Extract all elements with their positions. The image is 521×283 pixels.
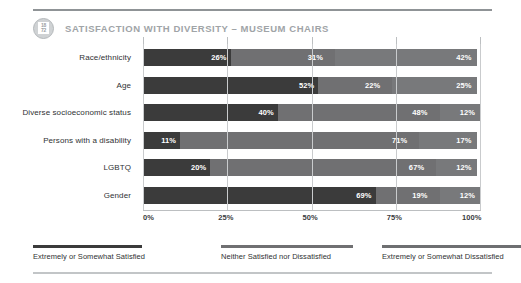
- bar-segment[interactable]: 25%: [392, 77, 476, 94]
- bar-segment[interactable]: 26%: [143, 49, 231, 66]
- bar-value-label: 12%: [460, 108, 480, 117]
- plot-area: 26%31%42%52%22%25%40%48%12%11%71%17%20%6…: [143, 44, 480, 210]
- gridline-0: [143, 44, 144, 210]
- bar-segment[interactable]: 42%: [335, 49, 477, 66]
- bar-value-label: 12%: [456, 163, 476, 172]
- gridline-75: [396, 44, 397, 210]
- bar-value-label: 19%: [412, 191, 439, 200]
- footer-divider: [33, 272, 492, 274]
- bar-value-label: 17%: [456, 136, 476, 145]
- bar-segment[interactable]: 17%: [419, 132, 476, 149]
- gridline-100: [480, 44, 481, 210]
- tick-stub-100: [480, 37, 481, 44]
- bar-segment[interactable]: 12%: [440, 187, 480, 204]
- bar-value-label: 69%: [356, 191, 375, 200]
- header-divider-top: [33, 9, 492, 11]
- bar-segment[interactable]: 20%: [143, 159, 210, 176]
- legend-swatch: [382, 245, 521, 248]
- category-label: Persons with a disability: [43, 132, 131, 149]
- category-label: Race/ethnicity: [79, 49, 131, 66]
- x-tick-label: 75%: [387, 213, 402, 222]
- chart-title: SATISFACTION WITH DIVERSITY – MUSEUM CHA…: [65, 23, 329, 34]
- bar-segment[interactable]: 11%: [143, 132, 180, 149]
- bar-segment[interactable]: 67%: [210, 159, 436, 176]
- bar-segment[interactable]: 52%: [143, 77, 318, 94]
- tick-stub-0: [143, 37, 144, 44]
- x-tick-label: 25%: [218, 213, 233, 222]
- bar-value-label: 11%: [161, 136, 180, 145]
- bar-value-label: 67%: [409, 163, 436, 172]
- bar-value-label: 22%: [365, 81, 392, 90]
- x-tick-label: 0%: [143, 213, 154, 222]
- badge-inner: 18 72: [38, 22, 49, 34]
- chart-legend: Extremely or Somewhat SatisfiedNeither S…: [33, 245, 492, 267]
- category-label: Gender: [104, 187, 131, 204]
- bar-segment[interactable]: 40%: [143, 104, 278, 121]
- legend-swatch: [33, 245, 142, 248]
- bar-segment[interactable]: 48%: [278, 104, 440, 121]
- badge-bottom-text: 72: [41, 28, 46, 33]
- bar-value-label: 20%: [191, 163, 210, 172]
- category-label: Age: [116, 77, 131, 94]
- gridline-50: [312, 44, 313, 210]
- x-axis-line: [143, 210, 481, 211]
- x-tick-label: 100%: [462, 213, 482, 222]
- tick-stub-50: [312, 37, 313, 44]
- legend-label: Extremely or Somewhat Satisfied: [33, 252, 142, 261]
- bar-segment[interactable]: 71%: [180, 132, 419, 149]
- bar-value-label: 48%: [412, 108, 439, 117]
- legend-label: Neither Satisfied nor Dissatisfied: [221, 252, 353, 261]
- x-axis-tick-labels: 0%25%50%75%100%: [0, 213, 515, 227]
- legend-swatch: [221, 245, 353, 248]
- report-badge-icon: 18 72: [33, 18, 54, 39]
- bar-value-label: 40%: [258, 108, 277, 117]
- bar-segment[interactable]: 12%: [440, 104, 480, 121]
- bar-segment[interactable]: 12%: [436, 159, 476, 176]
- bar-value-label: 52%: [299, 81, 318, 90]
- x-tick-label: 50%: [303, 213, 318, 222]
- category-label: Diverse socioeconomic status: [22, 104, 131, 121]
- bar-segment[interactable]: 19%: [376, 187, 440, 204]
- bar-value-label: 42%: [456, 53, 476, 62]
- legend-item[interactable]: Extremely or Somewhat Satisfied: [33, 245, 142, 261]
- bar-value-label: 25%: [456, 81, 476, 90]
- chart-header: 18 72 SATISFACTION WITH DIVERSITY – MUSE…: [33, 16, 329, 40]
- bar-segment[interactable]: 22%: [318, 77, 392, 94]
- gridline-25: [227, 44, 228, 210]
- category-axis: Race/ethnicityAgeDiverse socioeconomic s…: [0, 44, 137, 210]
- tick-stub-75: [396, 37, 397, 44]
- bar-segment[interactable]: 31%: [231, 49, 335, 66]
- bar-value-label: 12%: [460, 191, 480, 200]
- category-label: LGBTQ: [103, 159, 131, 176]
- legend-item[interactable]: Neither Satisfied nor Dissatisfied: [221, 245, 353, 261]
- bar-segment[interactable]: 69%: [143, 187, 376, 204]
- legend-item[interactable]: Extremely or Somewhat Dissatisfied: [382, 245, 521, 261]
- legend-label: Extremely or Somewhat Dissatisfied: [382, 252, 521, 261]
- tick-stub-25: [227, 37, 228, 44]
